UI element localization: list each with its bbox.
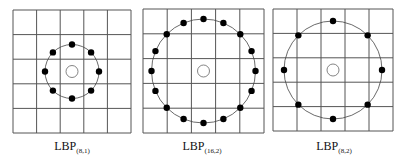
neighbor-point [50, 87, 56, 93]
neighbor-point [69, 41, 75, 47]
neighbor-point [148, 68, 154, 74]
neighbor-point [379, 67, 385, 73]
neighbor-point [237, 31, 243, 37]
neighbor-point [295, 32, 301, 38]
neighbor-point [96, 68, 102, 74]
lbp-figure: LBP(8,1) LBP(16,2) LBP(8,2) [0, 0, 401, 161]
neighbor-point [152, 48, 158, 54]
neighbor-point [152, 88, 158, 94]
neighbor-point [330, 116, 336, 122]
panel-lbp-8-1 [13, 10, 131, 133]
neighbor-point [50, 49, 56, 55]
neighbor-point [164, 31, 170, 37]
neighbor-point [88, 49, 94, 55]
neighbor-point [330, 18, 336, 24]
panel-lbp-8-2 [273, 9, 393, 131]
neighbor-point [180, 20, 186, 26]
center-pixel [327, 64, 339, 76]
neighbor-point [200, 120, 206, 126]
panel-label-lbp-8-2: LBP(8,2) [316, 139, 352, 155]
neighbor-point [248, 88, 254, 94]
neighbor-point [88, 87, 94, 93]
neighbor-point [220, 116, 226, 122]
panel-label-lbp-8-1: LBP(8,1) [54, 139, 90, 155]
neighbor-point [237, 105, 243, 111]
neighbor-point [364, 32, 370, 38]
neighbor-point [164, 105, 170, 111]
neighbor-point [42, 68, 48, 74]
panel-lbp-16-2 [143, 9, 264, 133]
neighbor-point [281, 67, 287, 73]
neighbor-point [364, 101, 370, 107]
neighbor-point [220, 20, 226, 26]
neighbor-point [200, 16, 206, 22]
panel-label-lbp-16-2: LBP(16,2) [183, 139, 223, 155]
center-pixel [66, 66, 78, 78]
neighbor-point [180, 116, 186, 122]
center-pixel [198, 65, 210, 77]
neighbor-point [248, 48, 254, 54]
neighbor-point [69, 95, 75, 101]
neighbor-point [252, 68, 258, 74]
neighbor-point [295, 101, 301, 107]
